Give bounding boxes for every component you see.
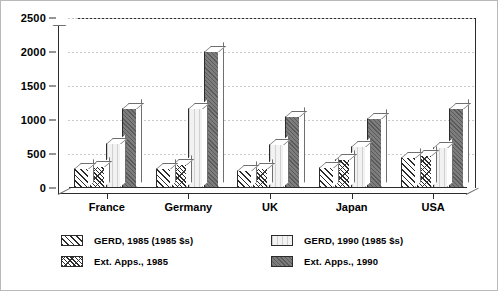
bar-side-face — [299, 107, 305, 187]
y-tick-label: 1000 — [21, 114, 46, 126]
legend-item: GERD, 1985 (1985 $s) — [61, 234, 193, 247]
y-tick-mark — [49, 188, 56, 189]
x-tick-mark — [270, 193, 271, 199]
y-tick-mark — [49, 120, 56, 121]
bar-group — [231, 18, 313, 188]
x-axis-label-france: France — [89, 201, 125, 213]
bar-side-face — [202, 99, 208, 187]
bar-group — [68, 18, 150, 188]
y-tick-mark — [49, 154, 56, 155]
bar — [319, 167, 334, 188]
y-tick-mark — [49, 86, 56, 87]
x-tick-mark — [352, 193, 353, 199]
legend-label: GERD, 1990 (1985 $s) — [304, 235, 403, 246]
y-tick-mark — [49, 52, 56, 53]
x-axis-label-uk: UK — [262, 201, 278, 213]
bar-group — [150, 18, 232, 188]
bars-container — [68, 18, 476, 188]
y-axis: 05001000150020002500 — [1, 18, 58, 198]
bar-group — [394, 18, 476, 188]
x-axis-ticks — [58, 193, 476, 201]
chart-legend: GERD, 1985 (1985 $s)Ext. Apps., 1985GERD… — [35, 232, 465, 276]
legend-label: GERD, 1985 (1985 $s) — [94, 235, 193, 246]
x-axis-label-germany: Germany — [165, 201, 213, 213]
y-tick-label: 500 — [27, 148, 46, 160]
y-tick-mark — [49, 18, 56, 19]
x-axis-label-japan: Japan — [336, 201, 368, 213]
x-axis-labels: FranceGermanyUKJapanUSA — [58, 201, 476, 217]
x-tick-mark — [188, 193, 189, 199]
legend-label: Ext. Apps., 1990 — [304, 256, 378, 267]
chart-figure: 05001000150020002500 FranceGermanyUKJapa… — [0, 0, 498, 291]
bar-side-face — [381, 109, 387, 187]
legend-swatch — [271, 235, 293, 246]
legend-swatch — [61, 235, 83, 246]
legend-item: Ext. Apps., 1990 — [271, 255, 378, 268]
bar-side-face — [463, 99, 469, 187]
x-axis-label-usa: USA — [422, 201, 445, 213]
legend-item: Ext. Apps., 1985 — [61, 255, 168, 268]
x-tick-mark — [107, 193, 108, 199]
bar — [237, 170, 252, 188]
y-tick-label: 1500 — [21, 80, 46, 92]
bar-side-face — [136, 99, 142, 187]
x-tick-mark — [433, 193, 434, 199]
y-tick-label: 2000 — [21, 46, 46, 58]
bar-side-face — [218, 42, 224, 187]
y-tick-label: 2500 — [21, 12, 46, 24]
plot-area — [58, 18, 476, 198]
legend-label: Ext. Apps., 1985 — [94, 256, 168, 267]
bar — [156, 168, 171, 188]
bar — [74, 168, 89, 188]
y-tick-label: 0 — [40, 182, 46, 194]
legend-swatch — [271, 256, 293, 267]
legend-swatch — [61, 256, 83, 267]
bar-group — [313, 18, 395, 188]
bar — [401, 157, 416, 188]
legend-item: GERD, 1990 (1985 $s) — [271, 234, 403, 247]
